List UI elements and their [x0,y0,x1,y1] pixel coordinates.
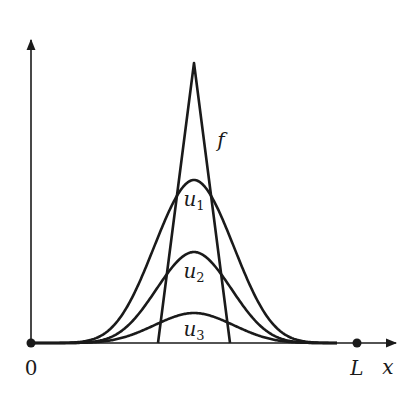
x-axis-label: x [382,357,393,377]
u2-label-subscript: 2 [196,270,204,285]
origin-label: 0 [25,358,38,378]
u1-label-subscript: 1 [196,198,204,213]
curve-f-label: f [217,130,224,150]
heat-diffusion-diagram [0,0,419,406]
u3-label-main: u [183,317,196,341]
u2-label-main: u [183,259,196,283]
u1-label-main: u [183,187,196,211]
curve-u2-label: u2 [183,261,204,284]
u3-label-subscript: 3 [196,328,204,343]
curve-u1-label: u1 [183,189,204,212]
curve-u3-label: u3 [183,319,204,342]
endpoint-L-point [353,339,362,348]
endpoint-L-label: L [350,358,363,378]
origin-point [27,339,36,348]
